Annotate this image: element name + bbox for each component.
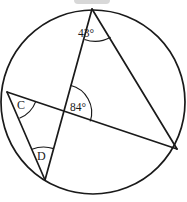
angle-label-43: 43° — [78, 27, 95, 39]
angle-label-84: 84° — [70, 101, 87, 113]
geometry-canvas: 43° 84° C D — [0, 0, 187, 202]
vertex-label-d: D — [37, 149, 46, 163]
chord-top-to-right — [92, 9, 177, 149]
vertex-label-c: C — [17, 98, 25, 112]
chord-left-to-right — [7, 92, 177, 149]
chord-left-to-bottom — [7, 92, 45, 180]
geometry-diagram: 43° 84° C D — [0, 0, 187, 202]
